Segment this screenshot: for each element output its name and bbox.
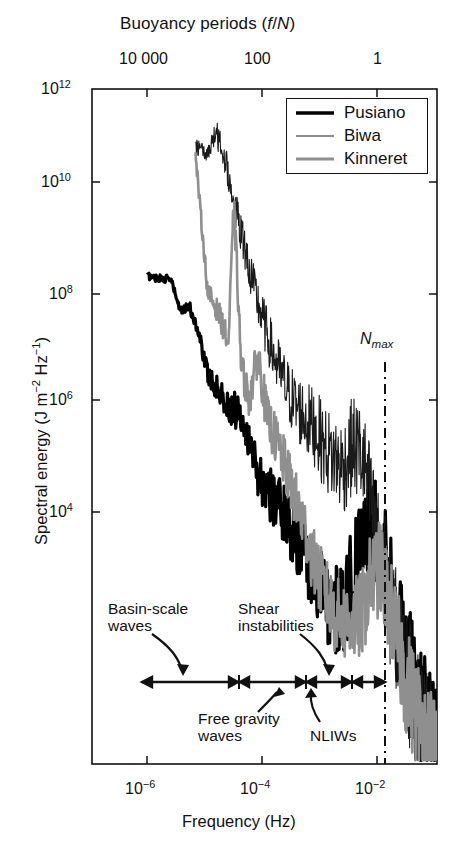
band-separator-2 xyxy=(296,675,316,689)
band-separator-3 xyxy=(342,675,362,689)
plot-frame xyxy=(92,89,437,764)
band-ruler-right-arrow xyxy=(375,677,385,687)
plot-canvas xyxy=(0,0,460,852)
arrow-nliws xyxy=(311,694,320,722)
series-pusiano xyxy=(147,273,436,760)
band-separator-1 xyxy=(229,675,249,689)
spectral-energy-figure: Buoyancy periods (f/N) 10 000 100 1 1012… xyxy=(0,0,460,852)
band-ruler xyxy=(142,675,385,689)
axis-ticks xyxy=(92,89,437,764)
data-curves xyxy=(147,123,436,760)
series-kinneret xyxy=(196,152,437,760)
band-ruler-left-arrow xyxy=(142,677,152,687)
arrow-free-gravity xyxy=(258,692,277,712)
